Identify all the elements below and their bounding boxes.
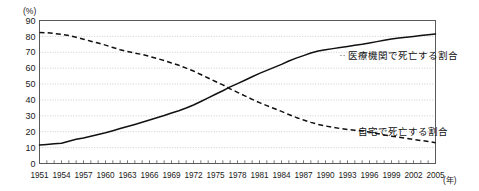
line-chart: 0102030405060708090 19511954195719601963… — [0, 0, 479, 191]
x-tick-label: 1978 — [228, 171, 247, 180]
x-axis-unit-label: (年) — [443, 175, 457, 185]
x-tick-label: 1951 — [30, 171, 49, 180]
y-axis-unit-label: (%) — [23, 6, 36, 16]
y-tick-label: 70 — [25, 47, 35, 57]
y-tick-label: 0 — [30, 159, 35, 169]
y-tick-label: 20 — [25, 127, 35, 137]
x-tick-label: 1966 — [140, 171, 159, 180]
x-tick-label: 1975 — [206, 171, 225, 180]
x-tick-label: 1969 — [162, 171, 181, 180]
series-annotations: 医療機関で死亡する割合自宅で死亡する割合 — [340, 50, 458, 137]
x-tick-label: 1990 — [316, 171, 335, 180]
x-tick-label: 1957 — [74, 171, 93, 180]
x-tick-label: 1972 — [184, 171, 203, 180]
series-label-2: 自宅で死亡する割合 — [358, 126, 448, 137]
chart-container: 0102030405060708090 19511954195719601963… — [0, 0, 479, 191]
x-tick-label: 1960 — [96, 171, 115, 180]
series-label-1: 医療機関で死亡する割合 — [348, 50, 458, 61]
x-tick-label: 1954 — [52, 171, 71, 180]
x-tick-label: 1981 — [250, 171, 269, 180]
x-tick-label: 1984 — [272, 171, 291, 180]
x-axis-tick-labels: 1951195419571960196319661969197219751978… — [30, 171, 445, 180]
y-tick-label: 50 — [25, 79, 35, 89]
y-tick-label: 60 — [25, 63, 35, 73]
x-tick-label: 1963 — [118, 171, 137, 180]
y-axis-tick-labels: 0102030405060708090 — [25, 16, 35, 169]
y-tick-label: 30 — [25, 111, 35, 121]
y-tick-label: 80 — [25, 32, 35, 42]
y-tick-label: 90 — [25, 16, 35, 26]
x-tick-label: 1996 — [360, 171, 379, 180]
y-tick-label: 10 — [25, 143, 35, 153]
x-tick-label: 1987 — [294, 171, 313, 180]
x-tick-label: 1999 — [382, 171, 401, 180]
x-tick-label: 2002 — [404, 171, 423, 180]
x-tick-label: 1993 — [338, 171, 357, 180]
y-tick-label: 40 — [25, 95, 35, 105]
